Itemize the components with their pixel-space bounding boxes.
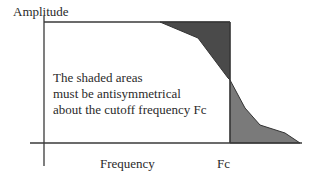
x-axis-label: Frequency	[100, 156, 155, 172]
annotation-line: about the cutoff frequency Fc	[53, 102, 207, 118]
lower-shaded-area	[230, 80, 300, 143]
cutoff-frequency-label: Fc	[217, 156, 230, 172]
annotation-text: The shaded areas must be antisymmetrical…	[53, 70, 207, 118]
annotation-line: The shaded areas	[53, 70, 207, 86]
y-axis-label: Amplitude	[13, 4, 69, 20]
annotation-line: must be antisymmetrical	[53, 86, 207, 102]
filter-response-diagram: Amplitude The shaded areas must be antis…	[0, 0, 316, 182]
